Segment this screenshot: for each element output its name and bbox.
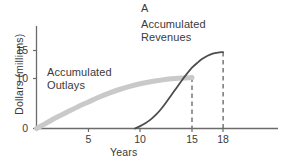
series-label-accumulated-revenues: AccumulatedRevenues [141,18,206,44]
y-tick-label-0: 0 [6,122,28,134]
revenues-label-line1: Accumulated [141,18,206,30]
x-tick-label-15: 15 [181,133,203,145]
outlays-label-line2: Outlays [47,79,85,91]
chart-figure: 15 10 0 5 10 15 18 A AccumulatedRevenues… [0,0,282,165]
outlays-label-line1: Accumulated [47,66,112,78]
x-tick-label-18: 18 [212,133,234,145]
revenues-label-line2: Revenues [141,31,191,43]
series-label-accumulated-outlays: AccumulatedOutlays [47,66,112,92]
x-tick-label-5: 5 [78,133,100,145]
x-tick-label-10: 10 [129,133,151,145]
chart-title: A [141,2,149,15]
y-axis-title: Dollars (millions) [13,32,25,116]
x-axis-title: Years [110,146,137,158]
series-line-accumulated-revenues [135,52,223,128]
